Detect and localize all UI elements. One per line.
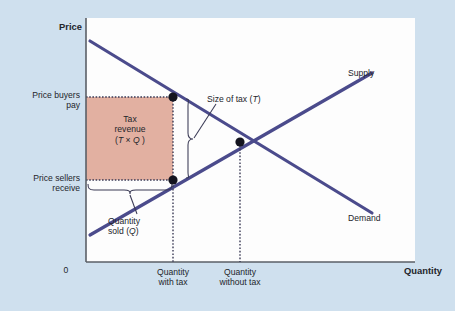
- quantity-sold-symbol: Q: [129, 226, 136, 236]
- quantity-sold-annotation: Quantitysold (Q): [108, 216, 170, 237]
- quantity-sold-prefix: sold (: [108, 226, 129, 236]
- y-tick-price-sellers-receive: Price sellers receive: [8, 173, 80, 194]
- tax-revenue-formula-times: ×: [123, 135, 133, 145]
- supply-curve-label: Supply: [348, 68, 398, 78]
- size-of-tax-annotation: Size of tax (T): [207, 94, 293, 104]
- tax-revenue-line1: Tax: [123, 114, 136, 124]
- origin-label: 0: [58, 265, 74, 275]
- quantity-sold-suffix: ): [136, 226, 139, 236]
- demand-curve-label: Demand: [348, 213, 398, 223]
- y-tick-price-buyers-pay: Price buyers pay: [8, 90, 80, 111]
- size-of-tax-suffix: ): [258, 94, 261, 104]
- tax-incidence-figure: Price Quantity 0 Price buyers pay Price …: [0, 0, 455, 311]
- y-axis-title: Price: [26, 21, 82, 32]
- quantity-sold-line1: Quantity: [108, 216, 140, 226]
- tax-revenue-formula-close: ): [140, 135, 145, 145]
- tax-revenue-line2: revenue: [114, 124, 145, 134]
- tax-revenue-formula-q: Q: [133, 135, 140, 145]
- tax-revenue-annotation: Taxrevenue(T × Q ): [92, 114, 168, 145]
- x-axis-title: Quantity: [370, 265, 442, 276]
- x-tick-quantity-with-tax: Quantity with tax: [141, 267, 205, 288]
- x-tick-quantity-without-tax: Quantity without tax: [202, 267, 278, 288]
- size-of-tax-prefix: Size of tax (: [207, 94, 252, 104]
